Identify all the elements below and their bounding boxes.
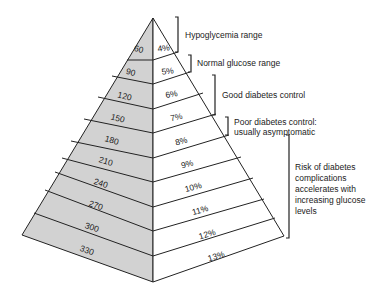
label-normal: Normal glucose range	[197, 58, 280, 68]
bracket-hypoglycemia	[175, 17, 178, 52]
label-risk-1: Risk of diabetes	[295, 162, 355, 172]
label-risk-5: levels	[295, 206, 317, 216]
label-poor-control-1: Poor diabetes control:	[234, 117, 317, 127]
label-risk-2: complications	[295, 173, 347, 183]
bracket-poor-control	[225, 117, 228, 135]
label-risk-3: accelerates with	[295, 184, 356, 194]
a1c-label: 5%	[161, 65, 175, 77]
label-poor-control-2: usually asymptomatic	[234, 127, 316, 137]
bracket-risk	[286, 135, 289, 238]
pyramid-left-face	[22, 18, 153, 282]
glucose-pyramid-diagram: 60 90 120 150 180 210 240 270 300 330 4%…	[0, 0, 381, 294]
label-good-control: Good diabetes control	[222, 90, 305, 100]
label-risk-4: increasing glucose	[295, 195, 366, 205]
a1c-label: 4%	[157, 42, 171, 54]
label-hypoglycemia: Hypoglycemia range	[185, 30, 263, 40]
bracket-good-control	[212, 75, 215, 115]
bracket-normal	[188, 55, 191, 72]
